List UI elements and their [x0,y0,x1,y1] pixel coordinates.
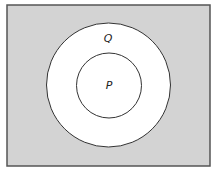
set-p-label: P [106,79,113,92]
set-q-label: Q [104,32,113,45]
venn-diagram: Q P [0,0,220,170]
